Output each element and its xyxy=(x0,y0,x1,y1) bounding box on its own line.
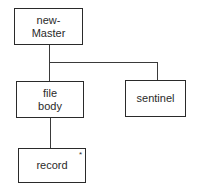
node-label: new- Master xyxy=(32,14,66,40)
connector-sentinel-down xyxy=(157,62,158,80)
node-record: record xyxy=(18,148,86,183)
node-label: file body xyxy=(38,87,62,113)
connector-horizontal xyxy=(49,62,158,63)
connector-master-down xyxy=(49,45,50,81)
node-file-body: file body xyxy=(16,81,84,118)
node-new-master: new- Master xyxy=(14,8,83,45)
node-label: sentinel xyxy=(137,92,175,105)
node-label: record xyxy=(36,159,67,172)
node-sentinel: sentinel xyxy=(125,80,186,117)
iteration-marker: * xyxy=(79,151,82,159)
connector-filebody-record xyxy=(50,118,51,148)
